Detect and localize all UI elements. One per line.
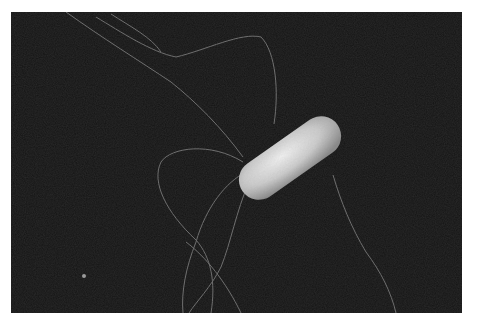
figure-caption [0,319,482,327]
micrograph-svg [11,12,462,313]
micrograph-image [11,12,462,313]
debris-speck [82,274,86,278]
